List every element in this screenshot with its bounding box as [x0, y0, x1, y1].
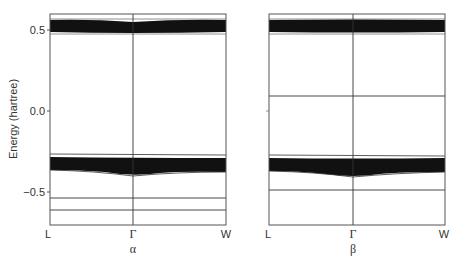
y-axis-title: Energy (hartree): [7, 79, 19, 159]
panel-beta: L Γ W β: [265, 14, 450, 256]
panel-alpha: L Γ W α: [45, 14, 232, 256]
valence-top-edge-beta: [269, 155, 445, 156]
panel-frame-alpha: [50, 14, 226, 225]
ytick-label--0.5: −0.5: [23, 186, 45, 198]
panel-label-beta: β: [350, 242, 356, 256]
xtick-L-beta: L: [265, 228, 271, 240]
conduction-band-beta: [269, 20, 445, 33]
panel-label-alpha: α: [130, 242, 137, 256]
conduction-band-alpha: [50, 20, 226, 33]
xtick-gamma-alpha: Γ: [130, 227, 137, 241]
ytick-label-0.5: 0.5: [30, 24, 45, 36]
panel-frame-beta: [269, 14, 445, 225]
ytick-label-0.0: 0.0: [30, 105, 45, 117]
xtick-W-alpha: W: [221, 228, 232, 240]
xtick-gamma-beta: Γ: [350, 227, 357, 241]
band-structure-figure: Energy (hartree) 0.5 0.0 −0.5 L Γ W α: [0, 0, 460, 266]
valence-top-edge-alpha: [50, 154, 226, 155]
valence-band-beta: [269, 158, 445, 176]
xtick-W-beta: W: [439, 228, 450, 240]
xtick-L-alpha: L: [45, 228, 51, 240]
